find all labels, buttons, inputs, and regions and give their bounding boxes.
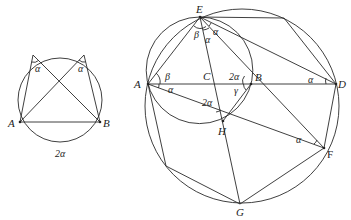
inscribed-polygon — [148, 17, 336, 204]
angle-label-e-beta: β — [193, 29, 199, 40]
angle-label-left-2: α — [78, 63, 84, 74]
angle-label-d-alpha: α — [308, 74, 314, 85]
label-c: C — [203, 70, 211, 82]
point-a-dot — [147, 83, 150, 86]
chord-p2-b — [84, 55, 100, 122]
angle-arc-b-gamma — [243, 84, 246, 90]
point-e-dot — [199, 16, 202, 19]
angle-label-e-alpha-right: α — [213, 26, 219, 37]
angle-label-b-gamma: γ — [234, 85, 239, 96]
angle-label-e-alpha-mid: α — [205, 34, 211, 45]
right-figure: A E C B D H F G β α α β α 2α γ 2α α α — [133, 3, 346, 218]
point-f-dot — [323, 147, 326, 150]
label-g: G — [236, 206, 244, 218]
angle-label-h-2alpha: 2α — [202, 97, 213, 108]
chord-p1-b — [33, 55, 100, 122]
point-d-dot — [335, 83, 338, 86]
point-b-dot — [250, 83, 253, 86]
label-left-b: B — [103, 117, 110, 129]
point-b-dot — [99, 121, 102, 124]
angle-arc-b-2alpha — [243, 76, 245, 84]
point-a-dot — [19, 121, 22, 124]
angle-label-left-1: α — [35, 63, 41, 74]
angle-label-a-alpha: α — [168, 84, 174, 95]
angle-arc-e-alpha2 — [209, 23, 211, 26]
label-a: A — [133, 78, 141, 90]
label-h: H — [217, 125, 227, 137]
left-figure: α α A B 2α — [7, 55, 110, 159]
left-circle — [18, 58, 102, 142]
chord-a-p2 — [20, 55, 84, 122]
angle-arc-a-alpha — [159, 84, 160, 88]
label-f: F — [327, 148, 333, 160]
arc-label-2alpha: 2α — [55, 148, 66, 159]
line-ed — [200, 17, 336, 84]
label-e: E — [195, 3, 203, 15]
label-b: B — [255, 71, 262, 83]
angle-label-a-beta: β — [164, 71, 170, 82]
label-left-a: A — [7, 117, 15, 129]
angle-arc-a-beta — [156, 73, 160, 84]
geometry-diagram: α α A B 2α — [0, 0, 351, 220]
angle-arc-f — [314, 140, 317, 144]
angle-label-f-alpha: α — [296, 134, 302, 145]
label-d: D — [337, 78, 346, 90]
point-h-dot — [222, 120, 225, 123]
chord-a-p1 — [20, 55, 33, 122]
angle-label-b-2alpha: 2α — [229, 71, 240, 82]
angle-arc-p2 — [79, 60, 86, 62]
